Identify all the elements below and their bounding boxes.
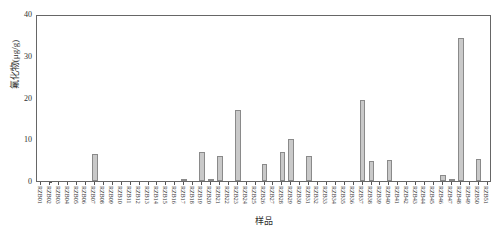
x-tick-label: RZB18 xyxy=(189,186,195,204)
x-tick-mark xyxy=(192,182,193,185)
figure-top-caption xyxy=(0,0,501,8)
x-tick-mark xyxy=(49,182,50,185)
x-tick-mark xyxy=(478,182,479,185)
bar xyxy=(199,152,205,181)
x-tick-mark xyxy=(362,182,363,185)
x-tick-label: RZB06 xyxy=(81,186,87,204)
x-tick-label: RZB15 xyxy=(162,186,168,204)
y-tick-label: 30 xyxy=(24,53,32,61)
x-tick-label: RZB12 xyxy=(135,186,141,204)
x-tick-label: RZB32 xyxy=(313,186,319,204)
x-tick-label: RZB17 xyxy=(180,186,186,204)
x-tick-label: RZB03 xyxy=(55,186,61,204)
x-tick-mark xyxy=(272,182,273,185)
x-tick-mark xyxy=(281,182,282,185)
x-tick-mark xyxy=(67,182,68,185)
bar xyxy=(306,156,312,181)
y-axis-tick-labels: 010203040 xyxy=(14,15,32,182)
x-tick-label: RZB33 xyxy=(322,186,328,204)
x-tick-label: RZB27 xyxy=(269,186,275,204)
x-tick-label: RZB29 xyxy=(287,186,293,204)
x-tick-label: RZB38 xyxy=(367,186,373,204)
bar xyxy=(476,159,482,181)
x-tick-mark xyxy=(308,182,309,185)
x-tick-mark xyxy=(379,182,380,185)
x-tick-label: RZB30 xyxy=(296,186,302,204)
x-tick-label: RZB31 xyxy=(305,186,311,204)
bar xyxy=(181,179,187,182)
x-tick-mark xyxy=(487,182,488,185)
bar xyxy=(360,100,366,181)
x-tick-label: RZB41 xyxy=(394,186,400,204)
x-tick-label: RZB49 xyxy=(465,186,471,204)
bar xyxy=(92,154,98,181)
x-tick-mark xyxy=(148,182,149,185)
x-tick-label: RZB05 xyxy=(73,186,79,204)
x-tick-label: RZB20 xyxy=(206,186,212,204)
x-tick-mark xyxy=(94,182,95,185)
x-tick-label: RZB09 xyxy=(108,186,114,204)
x-tick-label: RZB34 xyxy=(331,186,337,204)
plot-area xyxy=(36,15,491,182)
x-tick-mark xyxy=(76,182,77,185)
y-tick-label: 40 xyxy=(24,11,32,19)
x-tick-label: RZB50 xyxy=(474,186,480,204)
x-tick-mark xyxy=(112,182,113,185)
x-tick-mark xyxy=(353,182,354,185)
x-tick-mark xyxy=(388,182,389,185)
x-tick-mark xyxy=(415,182,416,185)
x-tick-mark xyxy=(406,182,407,185)
x-tick-mark xyxy=(469,182,470,185)
x-tick-label: RZB51 xyxy=(483,186,489,204)
bar xyxy=(235,110,241,181)
x-tick-label: RZB11 xyxy=(126,186,132,203)
x-tick-mark xyxy=(201,182,202,185)
x-tick-label: RZB22 xyxy=(224,186,230,204)
x-tick-mark xyxy=(397,182,398,185)
x-tick-mark xyxy=(183,182,184,185)
x-tick-mark xyxy=(451,182,452,185)
bar xyxy=(387,160,393,181)
x-tick-mark xyxy=(237,182,238,185)
x-tick-label: RZB47 xyxy=(447,186,453,204)
x-tick-mark xyxy=(165,182,166,185)
x-tick-label: RZB28 xyxy=(278,186,284,204)
x-tick-mark xyxy=(442,182,443,185)
bar xyxy=(288,139,294,181)
x-tick-label: RZB40 xyxy=(385,186,391,204)
x-tick-mark xyxy=(255,182,256,185)
x-tick-label: RZB44 xyxy=(420,186,426,204)
x-tick-mark xyxy=(40,182,41,185)
x-axis-tick-labels: RZB01RZB02RZB03RZB04RZB05RZB06RZB07RZB08… xyxy=(36,186,491,214)
y-tick-label: 20 xyxy=(24,95,32,103)
y-tick-label: 10 xyxy=(24,136,32,144)
x-tick-mark xyxy=(219,182,220,185)
x-tick-label: RZB01 xyxy=(37,186,43,204)
x-tick-label: RZB14 xyxy=(153,186,159,204)
x-tick-label: RZB13 xyxy=(144,186,150,204)
x-tick-label: RZB10 xyxy=(117,186,123,204)
x-axis-title: 样品 xyxy=(36,214,491,227)
x-tick-label: RZB02 xyxy=(46,186,52,204)
x-tick-label: RZB46 xyxy=(438,186,444,204)
x-tick-mark xyxy=(85,182,86,185)
x-tick-label: RZB21 xyxy=(215,186,221,204)
x-tick-label: RZB37 xyxy=(358,186,364,204)
x-tick-mark xyxy=(326,182,327,185)
bar xyxy=(440,175,446,181)
x-tick-mark xyxy=(371,182,372,185)
x-tick-label: RZB35 xyxy=(340,186,346,204)
x-tick-label: RZB36 xyxy=(349,186,355,204)
x-tick-mark xyxy=(460,182,461,185)
x-tick-label: RZB23 xyxy=(233,186,239,204)
x-tick-label: RZB04 xyxy=(64,186,70,204)
x-tick-label: RZB07 xyxy=(90,186,96,204)
x-tick-mark xyxy=(130,182,131,185)
bar xyxy=(208,179,214,182)
x-tick-mark xyxy=(264,182,265,185)
x-tick-label: RZB24 xyxy=(242,186,248,204)
x-tick-label: RZB16 xyxy=(171,186,177,204)
bar xyxy=(217,156,223,181)
x-tick-mark xyxy=(103,182,104,185)
x-tick-mark xyxy=(317,182,318,185)
